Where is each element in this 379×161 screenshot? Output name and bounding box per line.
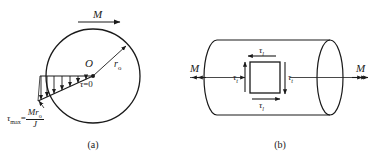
tau-max-subscript: max	[10, 119, 21, 125]
shear-label-top: τl	[259, 45, 264, 57]
shear-label-right: τt	[288, 72, 293, 84]
stress-element-square	[250, 62, 280, 93]
shear-label-left-sub: t	[236, 78, 238, 84]
shear-label-right-sub: t	[291, 78, 293, 84]
outer-radius-label: ro	[114, 58, 121, 71]
shear-label-top-sub: l	[262, 51, 264, 57]
tau-max-formula: τmax=MroJ	[7, 108, 44, 130]
panel-b-torque-left-label: M	[190, 62, 199, 74]
panel-b-graphics	[190, 0, 379, 161]
panel-b-torque-right-label: M	[356, 62, 365, 74]
panel-a-caption: (a)	[78, 139, 108, 150]
panel-b-caption: (b)	[265, 139, 295, 150]
zero-shear-value: =0	[83, 79, 93, 89]
center-point-label: O	[85, 57, 93, 69]
shear-label-bottom-sub: l	[262, 106, 264, 112]
shear-label-bottom: τl	[259, 100, 264, 112]
outer-radius-subscript: o	[118, 64, 121, 71]
numerator-radius-subscript: o	[39, 113, 42, 119]
shear-label-left: τt	[233, 72, 238, 84]
tau-max-denominator: J	[26, 120, 44, 129]
zero-shear-label: τ=0	[80, 79, 93, 89]
tau-max-fraction: MroJ	[26, 108, 44, 130]
panel-a-torque-label: M	[93, 8, 102, 20]
torsion-figure: M O ro τ=0 τmax=MroJ (a)	[0, 0, 379, 161]
tau-max-leader	[39, 101, 44, 108]
panel-a-graphics	[0, 0, 190, 161]
